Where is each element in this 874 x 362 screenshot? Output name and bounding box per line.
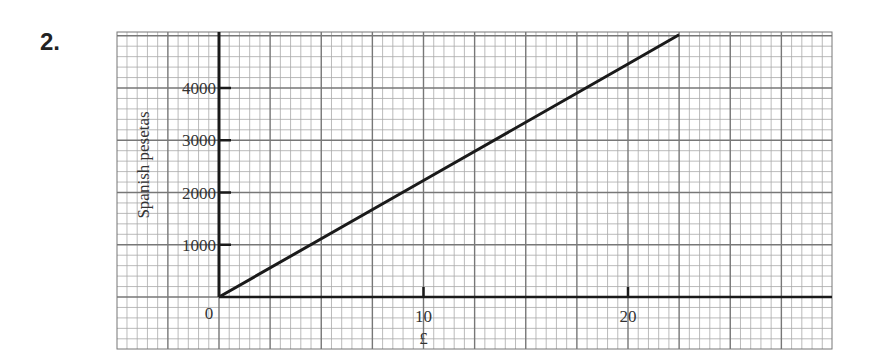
major-grid bbox=[117, 32, 832, 349]
y-tick-label: 4000 bbox=[182, 79, 216, 98]
y-tick-label: 1000 bbox=[182, 236, 216, 255]
y-tick-label: 2000 bbox=[182, 184, 216, 203]
x-tick-label: 20 bbox=[620, 307, 637, 326]
conversion-line bbox=[219, 35, 679, 297]
origin-label: 0 bbox=[205, 304, 214, 323]
y-tick-label: 3000 bbox=[182, 131, 216, 150]
tick-labels: 10002000300040001020 bbox=[182, 79, 637, 326]
x-axis-title: £ bbox=[419, 329, 428, 348]
y-axis-title: Spanish pesetas bbox=[134, 111, 153, 218]
x-tick-label: 10 bbox=[415, 307, 432, 326]
conversion-graph: 10002000300040001020 Spanish pesetas £ 0 bbox=[0, 0, 874, 362]
